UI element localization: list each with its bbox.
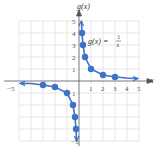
x-tick-5: 5: [137, 85, 141, 93]
y-tick-neg5: −5: [71, 138, 79, 146]
x-tick-2: 2: [101, 85, 105, 93]
equation-lhs: g(x) =: [88, 37, 108, 46]
y-tick-neg1: 1: [72, 90, 76, 98]
y-axis-label: g(x): [77, 2, 90, 11]
x-tick-1: 1: [89, 85, 93, 93]
y-tick-2: 2: [72, 54, 76, 62]
x-axis-label: x: [149, 76, 154, 85]
y-tick-4: 4: [72, 30, 76, 38]
equation-denominator: x: [116, 42, 120, 48]
y-tick-5: 5: [72, 18, 76, 26]
x-tick-4: 4: [125, 85, 129, 93]
graph: −5 1 2 3 4 5 5 4 3 2 1 1 −5 g(x) x g(x) …: [0, 0, 158, 151]
x-tick-neg5: −5: [7, 85, 15, 93]
equation-annotation: g(x) = 1 x: [88, 33, 121, 48]
y-tick-3: 3: [72, 42, 76, 50]
y-tick-1: 1: [72, 66, 76, 74]
equation-numerator: 1: [117, 33, 121, 41]
x-tick-3: 3: [113, 85, 117, 93]
